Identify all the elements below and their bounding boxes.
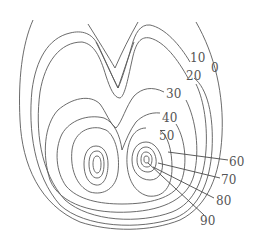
notch-line-left bbox=[88, 24, 115, 68]
label-70: 70 bbox=[221, 173, 236, 187]
contour-70-left bbox=[89, 151, 104, 178]
contour-90-right bbox=[144, 156, 149, 163]
contour-50-left bbox=[72, 128, 119, 193]
notch-line-right bbox=[115, 22, 138, 68]
label-20: 20 bbox=[186, 69, 201, 83]
contour-diagram: 10 0 20 30 40 50 60 70 80 90 bbox=[0, 0, 256, 243]
contour-80-left bbox=[93, 156, 101, 173]
label-0: 0 bbox=[211, 61, 219, 75]
label-40: 40 bbox=[162, 111, 177, 125]
leader-70 bbox=[158, 163, 220, 178]
notch-line-inner bbox=[96, 42, 134, 88]
contour-10 bbox=[31, 25, 212, 225]
label-50: 50 bbox=[159, 129, 174, 143]
contour-20 bbox=[38, 38, 206, 220]
label-10: 10 bbox=[190, 51, 205, 65]
leader-60 bbox=[168, 152, 228, 160]
label-30: 30 bbox=[166, 87, 181, 101]
label-90: 90 bbox=[200, 214, 215, 228]
contour-30 bbox=[45, 89, 196, 213]
label-80: 80 bbox=[216, 194, 231, 208]
label-60: 60 bbox=[229, 155, 244, 169]
